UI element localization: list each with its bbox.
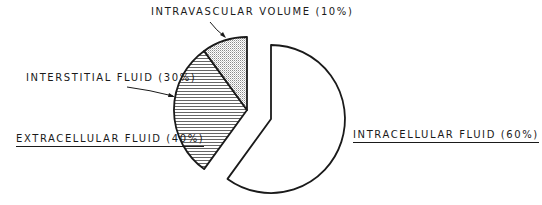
interstitial-arrow [127,87,173,96]
interstitial-label: INTERSTITIAL FLUID (30%) [26,72,196,84]
pie-chart [0,0,542,205]
intravascular-label: INTRAVASCULAR VOLUME (10%) [151,6,353,18]
intravascular-arrowhead-icon [220,32,226,38]
intracellular-label: INTRACELLULAR FLUID (60%) [353,129,539,143]
interstitial-arrowhead-icon [168,93,175,97]
extracellular-label: EXTRACELLULAR FLUID (40%) [16,133,204,147]
